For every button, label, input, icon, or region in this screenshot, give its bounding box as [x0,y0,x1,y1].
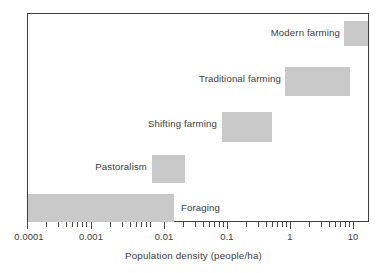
plot-frame: Modern farming Traditional farming Shift… [27,13,369,222]
label-foraging: Foraging [181,202,220,213]
label-modern-farming: Modern farming [271,27,340,38]
xtick-label-1: 0.001 [79,231,103,242]
xtick-label-4: 1 [287,231,292,242]
bar-foraging [28,194,174,222]
xtick-label-3: 0.1 [220,231,233,242]
label-shifting-farming: Shifting farming [148,118,217,129]
xtick-label-2: 0.01 [155,231,174,242]
xtick-label-0: 0.0001 [14,231,43,242]
bar-traditional-farming [285,67,350,96]
population-density-chart: Modern farming Traditional farming Shift… [0,0,387,273]
xtick-label-5: 10 [348,231,359,242]
x-axis-title: Population density (people/ha) [0,250,387,261]
label-traditional-farming: Traditional farming [199,73,281,84]
bar-pastoralism [152,155,185,183]
bar-shifting-farming [222,112,272,142]
label-pastoralism: Pastoralism [95,161,147,172]
bar-modern-farming [344,21,368,46]
x-axis-ticks [0,222,387,230]
